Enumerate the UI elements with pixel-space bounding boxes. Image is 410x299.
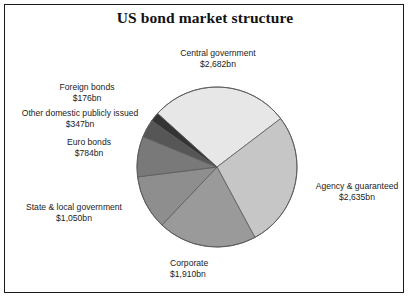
pie-label-state-local-government-name: State & local government	[6, 202, 142, 213]
pie-label-state-local-government-value: $1,050bn	[6, 213, 142, 224]
pie-label-agency-guaranteed-value: $2,635bn	[305, 192, 409, 203]
pie-label-foreign-bonds-value: $176bn	[32, 93, 142, 104]
pie-label-euro-bonds-name: Euro bonds	[36, 137, 142, 148]
chart-screenshot: US bond market structure Central governm…	[0, 0, 410, 299]
pie-label-corporate-name: Corporate	[170, 258, 280, 269]
pie-label-agency-guaranteed: Agency & guaranteed $2,635bn	[305, 181, 409, 203]
pie-label-euro-bonds: Euro bonds $784bn	[36, 137, 142, 159]
pie-label-central-government-value: $2,682bn	[158, 59, 278, 70]
pie-label-euro-bonds-value: $784bn	[36, 148, 142, 159]
pie-label-state-local-government: State & local government $1,050bn	[6, 202, 142, 224]
pie-label-other-domestic-publicly-issued-value: $347bn	[1, 119, 159, 130]
pie-chart: Central government $2,682bn Agency & gua…	[0, 0, 410, 299]
pie-label-foreign-bonds-name: Foreign bonds	[32, 82, 142, 93]
pie-label-central-government-name: Central government	[158, 48, 278, 59]
pie-label-foreign-bonds: Foreign bonds $176bn	[32, 82, 142, 104]
pie-label-agency-guaranteed-name: Agency & guaranteed	[305, 181, 409, 192]
pie-label-other-domestic-publicly-issued-name: Other domestic publicly issued	[1, 108, 159, 119]
pie-label-central-government: Central government $2,682bn	[158, 48, 278, 70]
pie-label-corporate-value: $1,910bn	[170, 269, 280, 280]
pie-slice-group	[137, 87, 297, 247]
pie-label-other-domestic-publicly-issued: Other domestic publicly issued $347bn	[1, 108, 159, 130]
pie-label-corporate: Corporate $1,910bn	[170, 258, 280, 280]
